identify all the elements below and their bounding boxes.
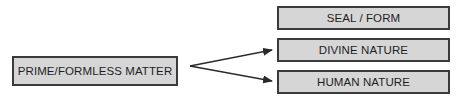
connector-arrows bbox=[0, 0, 462, 99]
arrow-to-human-nature bbox=[190, 66, 272, 81]
arrow-to-divine-nature bbox=[190, 50, 272, 66]
